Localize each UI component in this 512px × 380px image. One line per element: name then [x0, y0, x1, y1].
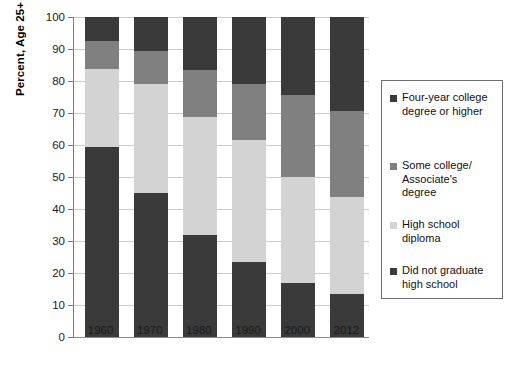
- bar-1990: [232, 17, 266, 337]
- plot-area: 0102030405060708090100: [73, 17, 368, 337]
- legend-swatch-icon: [390, 95, 397, 102]
- bar-segment: [134, 193, 168, 337]
- y-axis-title: Percent, Age 25+: [14, 0, 26, 96]
- bar-segment: [281, 95, 315, 177]
- bar-segment: [183, 17, 217, 70]
- bar-segment: [85, 17, 119, 41]
- y-axis-tick: [68, 113, 74, 114]
- bar-segment: [183, 235, 217, 337]
- legend-swatch-icon: [390, 268, 397, 275]
- bar-2000: [281, 17, 315, 337]
- y-axis-tick-label: 40: [52, 203, 65, 215]
- bar-segment: [85, 69, 119, 147]
- x-axis-tick-label: 2012: [316, 324, 376, 336]
- y-axis-tick: [68, 209, 74, 210]
- bar-segment: [134, 84, 168, 192]
- legend-entry[interactable]: Four-year collegedegree or higher: [390, 91, 498, 118]
- bar-segment: [232, 84, 266, 140]
- legend-label: Some college/Associate'sdegree: [402, 159, 472, 200]
- legend-entry[interactable]: Did not graduatehigh school: [390, 264, 498, 291]
- bar-1960: [85, 17, 119, 337]
- bar-segment: [281, 17, 315, 95]
- y-axis-tick-label: 30: [52, 235, 65, 247]
- bar-segment: [330, 111, 364, 196]
- y-axis-tick: [68, 305, 74, 306]
- bar-segment: [134, 51, 168, 85]
- bar-segment: [134, 17, 168, 51]
- legend-swatch-icon: [390, 222, 397, 229]
- y-axis-tick: [68, 49, 74, 50]
- bar-segment: [232, 17, 266, 84]
- bar-2012: [330, 17, 364, 337]
- bar-segment: [85, 41, 119, 69]
- y-axis-tick: [68, 241, 74, 242]
- y-axis-tick-label: 60: [52, 139, 65, 151]
- bar-segment: [330, 197, 364, 294]
- bar-segment: [330, 17, 364, 111]
- bar-segment: [85, 147, 119, 337]
- legend-entry[interactable]: High schooldiploma: [390, 218, 498, 245]
- y-axis-tick-label: 90: [52, 43, 65, 55]
- legend-swatch-icon: [390, 163, 397, 170]
- bar-segment: [281, 177, 315, 283]
- y-axis-tick-label: 50: [52, 171, 65, 183]
- legend-entry[interactable]: Some college/Associate'sdegree: [390, 159, 498, 200]
- bar-1970: [134, 17, 168, 337]
- y-axis-tick-label: 20: [52, 267, 65, 279]
- y-axis-tick-label: 80: [52, 75, 65, 87]
- y-axis-tick: [68, 177, 74, 178]
- y-axis-tick: [68, 145, 74, 146]
- bar-segment: [232, 140, 266, 262]
- y-axis-tick-label: 10: [52, 299, 65, 311]
- bar-segment: [183, 70, 217, 117]
- legend-label: Did not graduatehigh school: [402, 264, 483, 291]
- legend-label: High schooldiploma: [402, 218, 459, 245]
- y-axis-tick-label: 70: [52, 107, 65, 119]
- bar-segment: [183, 117, 217, 235]
- legend-label: Four-year collegedegree or higher: [402, 91, 488, 118]
- y-axis-tick: [68, 337, 74, 338]
- stacked-bar-chart: Percent, Age 25+ 0102030405060708090100 …: [0, 0, 512, 380]
- y-axis-tick: [68, 17, 74, 18]
- gridline: [74, 337, 369, 338]
- y-axis-tick-label: 100: [46, 11, 65, 23]
- bar-1980: [183, 17, 217, 337]
- y-axis-tick: [68, 81, 74, 82]
- chart-legend: Four-year collegedegree or higherSome co…: [381, 80, 503, 299]
- y-axis-tick-label: 0: [59, 331, 65, 343]
- y-axis-tick: [68, 273, 74, 274]
